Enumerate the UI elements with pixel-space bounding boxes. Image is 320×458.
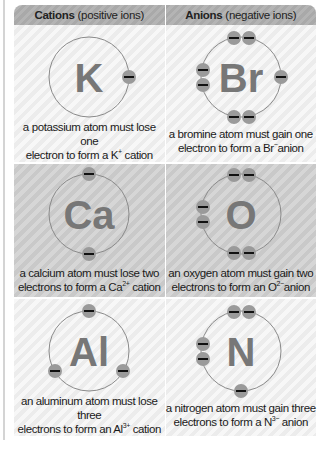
ion-table: Cations(positive ions) Anions(negative i… <box>14 5 316 436</box>
header-cations: Cations(positive ions) <box>14 5 166 25</box>
caption-line1: an aluminum atom must lose three <box>14 394 165 422</box>
header-anions-bold: Anions <box>185 9 222 21</box>
oxygen-atom-diagram: O <box>166 164 316 264</box>
caption-oxygen: an oxygen atom must gain twoelectrons to… <box>168 266 313 294</box>
cell-nitrogen: N a nitrogen atom must gain threeelectro… <box>166 299 317 436</box>
element-symbol: O <box>225 193 256 237</box>
element-symbol: N <box>226 330 255 374</box>
caption-line2: electrons to form a Ca2+ cation <box>18 280 161 294</box>
caption-line1: a potassium atom must lose one <box>14 120 165 148</box>
caption-line2: electron to form a K+ cation <box>14 148 165 162</box>
caption-line2: electron to form a Br−anion <box>169 141 313 155</box>
row-calcium-oxygen: Ca a calcium atom must lose twoelectrons… <box>14 162 316 299</box>
cell-potassium: K a potassium atom must lose oneelectron… <box>14 25 166 162</box>
potassium-atom-diagram: K <box>14 25 164 118</box>
cell-oxygen: O an oxygen atom must gain twoelectrons … <box>166 164 317 297</box>
element-symbol: Ca <box>64 193 116 237</box>
caption-line1: a nitrogen atom must gain three <box>166 401 316 415</box>
caption-calcium: a calcium atom must lose twoelectrons to… <box>18 266 161 294</box>
bromine-atom-diagram: Br <box>166 25 316 125</box>
element-symbol: Br <box>219 56 263 100</box>
caption-line1: a calcium atom must lose two <box>18 266 161 280</box>
caption-line1: an oxygen atom must gain two <box>168 266 313 280</box>
aluminum-atom-diagram: Al <box>14 299 164 392</box>
header-cations-rest: (positive ions) <box>78 9 144 21</box>
caption-bromine: a bromine atom must gain oneelectron to … <box>169 127 313 155</box>
caption-line2: electrons to form a N3− anion <box>166 415 316 429</box>
element-symbol: Al <box>69 330 109 374</box>
caption-potassium: a potassium atom must lose oneelectron t… <box>14 120 165 162</box>
caption-line2: electrons to form an O2−anion <box>168 280 313 294</box>
caption-line2: electrons to form an Al3+ cation <box>14 422 165 436</box>
header-anions-rest: (negative ions) <box>225 9 296 21</box>
left-border <box>3 0 5 440</box>
caption-line1: a bromine atom must gain one <box>169 127 313 141</box>
cell-calcium: Ca a calcium atom must lose twoelectrons… <box>14 164 166 297</box>
calcium-atom-diagram: Ca <box>14 164 164 264</box>
header-cations-bold: Cations <box>34 9 74 21</box>
row-potassium-bromine: K a potassium atom must lose oneelectron… <box>14 25 316 162</box>
nitrogen-atom-diagram: N <box>166 299 316 399</box>
table-header: Cations(positive ions) Anions(negative i… <box>14 5 316 25</box>
cell-bromine: Br a bromine atom must gain oneelectron … <box>166 25 317 162</box>
caption-nitrogen: a nitrogen atom must gain threeelectrons… <box>166 401 316 429</box>
electron-icon <box>122 70 136 84</box>
element-symbol: K <box>75 56 104 100</box>
row-aluminum-nitrogen: Al an aluminum atom must lose threeelect… <box>14 299 316 436</box>
cell-aluminum: Al an aluminum atom must lose threeelect… <box>14 299 166 436</box>
caption-aluminum: an aluminum atom must lose threeelectron… <box>14 394 165 436</box>
header-anions: Anions(negative ions) <box>166 5 317 25</box>
